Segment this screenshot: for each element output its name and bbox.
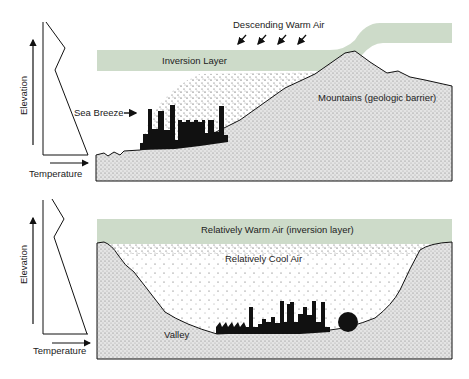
elevation-label: Elevation [18,76,29,115]
storage-tank [338,312,358,332]
descending-arrows [238,35,306,44]
temperature-label-bottom: Temperature [33,345,86,356]
elevation-label-bottom: Elevation [18,245,29,284]
inversion-layer-band [97,23,452,71]
bottom-panel: Elevation Temperature Relatively Warm Ai… [18,199,452,359]
mountains-label: Mountains (geologic barrier) [318,92,436,103]
cool-air-label: Relatively Cool Air [225,253,302,264]
warm-air-label: Relatively Warm Air (inversion layer) [201,224,354,235]
temperature-profile-top: Elevation Temperature [18,22,88,179]
descending-warm-air-label: Descending Warm Air [233,19,325,30]
temperature-label: Temperature [29,168,82,179]
inversion-layer-label: Inversion Layer [162,55,227,66]
temperature-profile-bottom: Elevation Temperature [18,199,90,356]
valley-label: Valley [164,329,189,340]
top-panel: Elevation Temperature Inversion Layer De… [18,19,452,181]
sea-breeze-label: Sea Breeze [74,107,124,118]
